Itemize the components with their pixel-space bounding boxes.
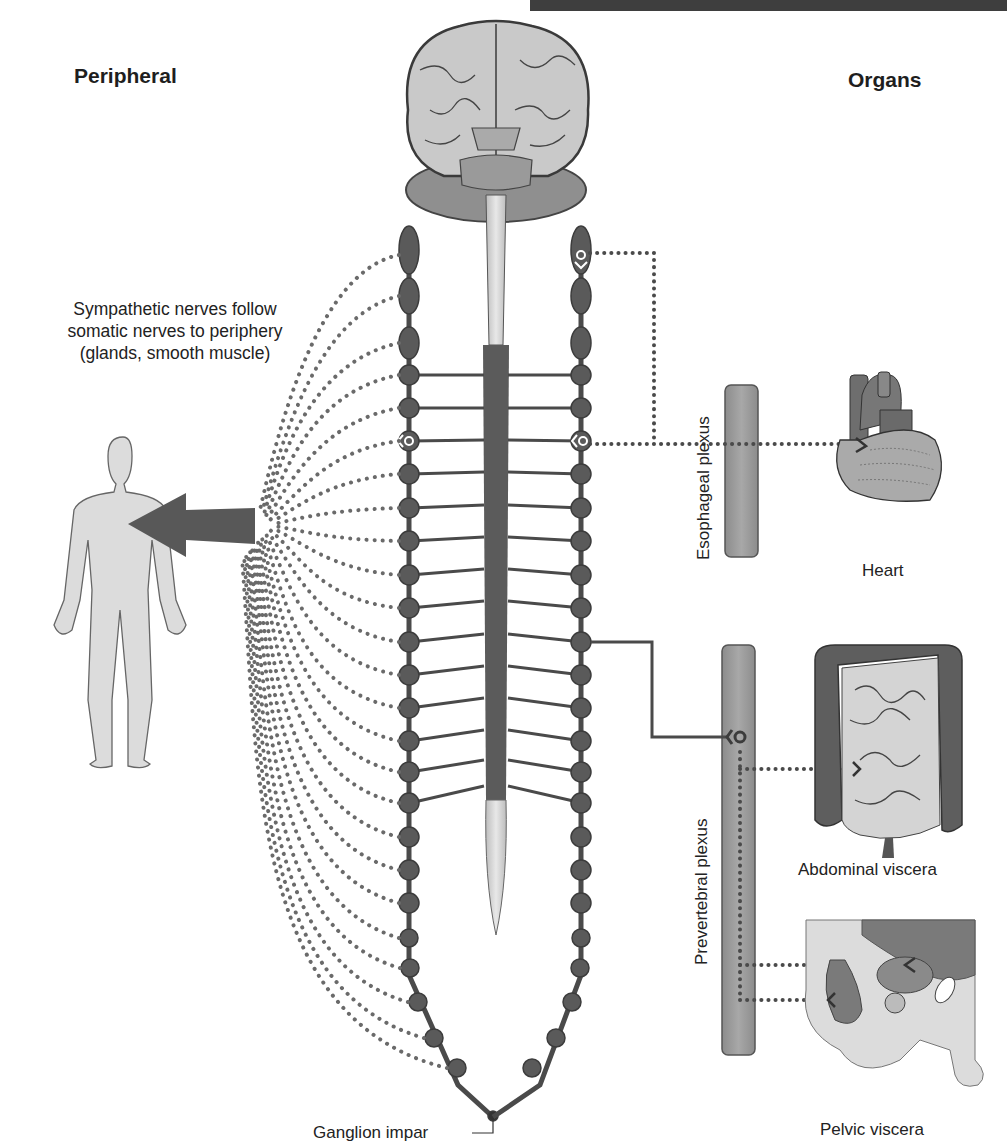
pelvic-viscera-illustration: [805, 920, 983, 1086]
caption-line-3: (glands, smooth muscle): [10, 342, 340, 364]
splanchnic-nerve: [591, 642, 728, 737]
peripheral-heading: Peripheral: [74, 64, 177, 88]
abdominal-viscera-illustration: [815, 645, 962, 858]
heart-illustration: [837, 372, 942, 501]
organs-heading: Organs: [848, 68, 922, 92]
sympathetic-caption: Sympathetic nerves follow somatic nerves…: [10, 298, 340, 364]
pelvic-viscera-label: Pelvic viscera: [820, 1120, 924, 1140]
esophageal-plexus-bar: [725, 385, 758, 557]
brain-illustration: [406, 21, 589, 222]
caption-line-1: Sympathetic nerves follow: [10, 298, 340, 320]
abdominal-viscera-label: Abdominal viscera: [798, 860, 937, 880]
esophageal-plexus-label: Esophageal plexus: [694, 416, 714, 560]
ganglion-impar-label: Ganglion impar: [313, 1123, 428, 1143]
human-figure: [54, 437, 186, 768]
spinal-cord: [483, 195, 509, 935]
caption-line-2: somatic nerves to periphery: [10, 320, 340, 342]
prevertebral-plexus-label: Prevertebral plexus: [692, 819, 712, 965]
heart-label: Heart: [862, 561, 904, 581]
diagram-canvas: [0, 0, 1007, 1147]
